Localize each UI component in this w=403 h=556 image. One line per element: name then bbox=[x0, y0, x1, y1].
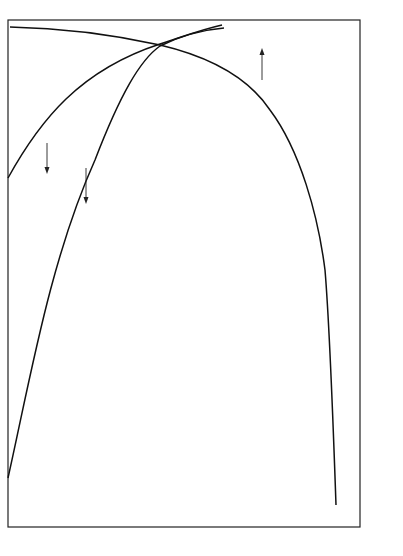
a-star-curve bbox=[10, 27, 336, 505]
delta-star-annotation bbox=[45, 143, 50, 174]
plot-frame bbox=[8, 20, 360, 527]
figure-5-5-chart bbox=[0, 0, 403, 556]
delta-star-arrowhead-icon bbox=[45, 167, 50, 174]
a-star-annotation bbox=[260, 48, 265, 80]
b-star-arrowhead-icon bbox=[84, 197, 89, 204]
delta-star-curve bbox=[8, 28, 224, 478]
curve-annotations bbox=[45, 48, 265, 204]
a-star-arrowhead-icon bbox=[260, 48, 265, 55]
b-star-curve bbox=[8, 25, 222, 178]
curves bbox=[8, 25, 336, 505]
